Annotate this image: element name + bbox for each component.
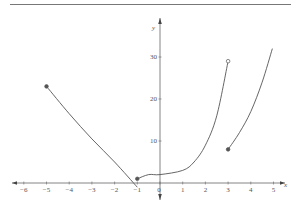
piece-1-curve bbox=[47, 86, 138, 187]
piece-3-curve bbox=[228, 49, 272, 150]
curves bbox=[47, 49, 273, 188]
svg-text:−4: −4 bbox=[65, 186, 73, 194]
svg-text:30: 30 bbox=[150, 53, 158, 61]
svg-text:−6: −6 bbox=[20, 186, 28, 194]
svg-text:−5: −5 bbox=[43, 186, 51, 194]
x-axis-label: x bbox=[283, 181, 288, 189]
svg-text:−1: −1 bbox=[134, 186, 142, 194]
svg-text:20: 20 bbox=[150, 95, 158, 103]
axes bbox=[12, 18, 285, 200]
svg-text:1: 1 bbox=[181, 186, 185, 194]
point-markers bbox=[45, 59, 230, 180]
svg-text:5: 5 bbox=[272, 186, 276, 194]
svg-text:−3: −3 bbox=[88, 186, 96, 194]
svg-text:0: 0 bbox=[157, 186, 161, 194]
closed-point-marker bbox=[226, 148, 230, 152]
tick-labels: −6−5−4−3−2−1012345102030 bbox=[20, 53, 276, 194]
piecewise-function-graph: −6−5−4−3−2−1012345102030 x y bbox=[0, 0, 297, 210]
svg-text:3: 3 bbox=[226, 186, 230, 194]
svg-text:10: 10 bbox=[150, 137, 158, 145]
svg-text:4: 4 bbox=[249, 186, 253, 194]
open-point-marker bbox=[226, 59, 230, 63]
y-axis-label: y bbox=[151, 24, 156, 32]
closed-point-marker bbox=[136, 177, 140, 181]
svg-text:2: 2 bbox=[204, 186, 208, 194]
closed-point-marker bbox=[45, 85, 49, 89]
piece-2-curve bbox=[137, 61, 228, 179]
svg-text:−2: −2 bbox=[111, 186, 119, 194]
